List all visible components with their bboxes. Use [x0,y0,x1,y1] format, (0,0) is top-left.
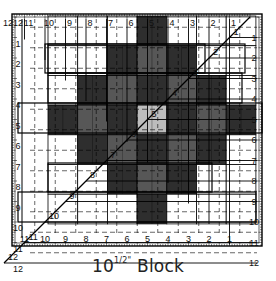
block-cell-w [48,135,78,165]
diagonal-label: 4 [172,88,177,98]
right-scale-label: 11 [249,238,258,248]
top-scale-label: 9 [67,18,72,28]
bottom-scale-label: 3 [186,234,191,244]
bottom-scale-label: 5 [145,234,150,244]
diagonal-label: 11 [29,232,38,242]
top-scale-label: 6 [128,18,133,28]
top-scale-label: 8 [87,18,92,28]
bottom-scale-label: 10 [40,234,50,244]
ruler-block-diagram: 1211109876543211212345678910111211109876… [0,0,276,281]
block-cell-w [78,194,108,224]
block-cell-w [167,194,197,224]
left-scale-label: 8 [15,182,20,192]
block-cell-w [78,46,108,76]
diagonal-label: 10 [49,211,59,221]
top-scale-label: 5 [149,18,154,28]
right-scale-label: 5 [251,115,256,125]
diagonal-label: 7 [111,150,116,160]
right-scale-label: 8 [251,176,256,186]
left-scale-label: 1 [15,39,20,49]
block-cell-w [107,194,137,224]
caption-size: 10 [92,256,114,276]
right-scale-label: 2 [251,53,256,63]
block-cell-w [197,165,227,195]
block-caption: 101/2" Block [0,256,276,276]
top-scale-label: 4 [169,18,174,28]
left-scale-label: 9 [15,203,20,213]
left-scale-label: 10 [13,223,23,233]
block-cell-w [197,46,227,76]
right-scale-label: 3 [251,74,256,84]
top-scale-label: 10 [44,18,54,28]
bottom-scale-label: 8 [83,234,88,244]
right-scale-label: 10 [249,217,259,227]
bottom-scale-label: 7 [104,234,109,244]
top-scale-label: 2 [210,18,215,28]
diagonal-label: 6 [131,129,136,139]
bottom-scale-label: 1 [227,234,232,244]
diagonal-label: 8 [90,170,95,180]
right-scale-label: 6 [251,135,256,145]
diagonal-label: 5 [152,109,157,119]
left-scale-label: 12 [13,18,23,28]
bottom-scale-label: 6 [124,234,129,244]
left-scale-label: 6 [15,141,20,151]
diagonal-label: 2 [213,47,218,57]
left-scale-label: 7 [15,162,20,172]
block-cell-w [197,194,227,224]
left-scale-label: 2 [15,59,20,69]
block-cell-w [48,46,78,76]
right-scale-label: 9 [251,197,256,207]
top-scale-label: 11 [24,18,33,28]
diagonal-label: 3 [193,68,198,78]
left-scale-label: 4 [15,100,20,110]
bottom-scale-label: 9 [63,234,68,244]
left-scale-label: 3 [15,80,20,90]
right-scale-label: 4 [251,94,256,104]
bottom-scale-label: 2 [206,234,211,244]
left-scale-label: 5 [15,121,20,131]
block-cell-w [48,75,78,105]
top-scale-label: 12 [3,18,13,28]
bottom-scale-label: 4 [165,234,170,244]
caption-word: Block [137,256,184,276]
caption-fraction: 1/2" [114,256,131,265]
top-scale-label: 3 [190,18,195,28]
diagonal-label: 1 [234,27,239,37]
diagonal-label: 9 [70,191,75,201]
top-scale-label: 7 [108,18,113,28]
block-cell-w [78,16,108,46]
right-scale-label: 1 [251,33,256,43]
right-scale-label: 7 [251,156,256,166]
